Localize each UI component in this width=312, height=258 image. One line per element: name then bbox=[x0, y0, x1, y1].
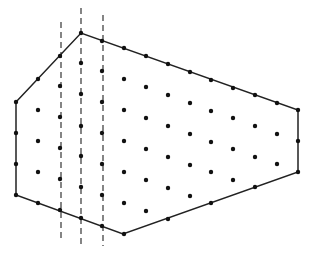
lattice-point bbox=[166, 93, 170, 97]
lattice-point bbox=[100, 39, 104, 43]
lattice-point bbox=[79, 124, 83, 128]
lattice-point bbox=[100, 193, 104, 197]
lattice-point bbox=[144, 209, 148, 213]
lattice-point bbox=[253, 93, 257, 97]
lattice-point bbox=[122, 170, 126, 174]
lattice-point bbox=[209, 201, 213, 205]
lattice-point bbox=[166, 217, 170, 221]
lattice-point bbox=[58, 115, 62, 119]
lattice-point bbox=[79, 92, 83, 96]
lattice-point bbox=[166, 62, 170, 66]
lattice-point bbox=[36, 170, 40, 174]
lattice-point bbox=[100, 100, 104, 104]
lattice-point bbox=[79, 154, 83, 158]
lattice-point bbox=[79, 31, 83, 35]
lattice-point bbox=[275, 101, 279, 105]
lattice-point bbox=[100, 224, 104, 228]
lattice-point bbox=[79, 185, 83, 189]
lattice-point bbox=[14, 162, 18, 166]
lattice-point bbox=[58, 54, 62, 58]
lattice-point bbox=[275, 132, 279, 136]
lattice-point bbox=[209, 170, 213, 174]
lattice-point bbox=[209, 109, 213, 113]
lattice-points bbox=[14, 31, 300, 236]
lattice-point bbox=[275, 162, 279, 166]
lattice-point bbox=[79, 216, 83, 220]
lattice-point bbox=[188, 132, 192, 136]
lattice-point bbox=[122, 139, 126, 143]
lattice-point bbox=[122, 232, 126, 236]
lattice-polygon-outline bbox=[16, 33, 298, 234]
lattice-point bbox=[188, 70, 192, 74]
lattice-point bbox=[36, 201, 40, 205]
lattice-point bbox=[296, 139, 300, 143]
lattice-point bbox=[144, 147, 148, 151]
lattice-point bbox=[100, 131, 104, 135]
lattice-point bbox=[209, 78, 213, 82]
lattice-point bbox=[79, 61, 83, 65]
lattice-point bbox=[122, 77, 126, 81]
lattice-point bbox=[58, 208, 62, 212]
lattice-point bbox=[166, 155, 170, 159]
lattice-point bbox=[144, 54, 148, 58]
lattice-point bbox=[231, 116, 235, 120]
lattice-point bbox=[100, 69, 104, 73]
lattice-point bbox=[253, 155, 257, 159]
lattice-point bbox=[253, 185, 257, 189]
lattice-point bbox=[122, 108, 126, 112]
lattice-point bbox=[296, 170, 300, 174]
lattice-point bbox=[296, 108, 300, 112]
lattice-point bbox=[36, 139, 40, 143]
lattice-point bbox=[100, 162, 104, 166]
lattice-point bbox=[58, 146, 62, 150]
lattice-point bbox=[144, 178, 148, 182]
lattice-point bbox=[58, 84, 62, 88]
lattice-point bbox=[144, 85, 148, 89]
lattice-point bbox=[231, 86, 235, 90]
lattice-point bbox=[14, 193, 18, 197]
lattice-point bbox=[188, 194, 192, 198]
lattice-point bbox=[231, 178, 235, 182]
lattice-point bbox=[188, 163, 192, 167]
lattice-point bbox=[166, 124, 170, 128]
lattice-point bbox=[231, 147, 235, 151]
lattice-polygon-diagram bbox=[0, 0, 312, 258]
lattice-point bbox=[36, 77, 40, 81]
lattice-point bbox=[188, 101, 192, 105]
lattice-point bbox=[58, 177, 62, 181]
lattice-point bbox=[122, 46, 126, 50]
lattice-point bbox=[144, 116, 148, 120]
lattice-point bbox=[14, 100, 18, 104]
lattice-point bbox=[209, 140, 213, 144]
lattice-point bbox=[14, 131, 18, 135]
lattice-point bbox=[166, 186, 170, 190]
lattice-point bbox=[253, 124, 257, 128]
lattice-point bbox=[36, 108, 40, 112]
lattice-point bbox=[122, 201, 126, 205]
